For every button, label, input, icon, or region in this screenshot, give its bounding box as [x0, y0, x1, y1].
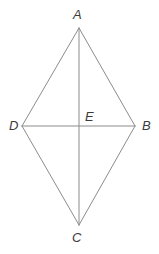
vertex-label-D: D: [9, 119, 18, 132]
segment-DA: [22, 28, 79, 126]
vertex-label-E: E: [85, 110, 94, 123]
segment-CD: [22, 126, 79, 225]
geometry-canvas: [0, 0, 159, 254]
vertex-label-A: A: [73, 8, 82, 21]
vertex-label-C: C: [72, 231, 81, 244]
geometry-figure: A B C D E: [0, 0, 159, 254]
segment-BC: [79, 126, 135, 225]
segments-group: [22, 28, 135, 225]
vertex-label-B: B: [142, 119, 151, 132]
